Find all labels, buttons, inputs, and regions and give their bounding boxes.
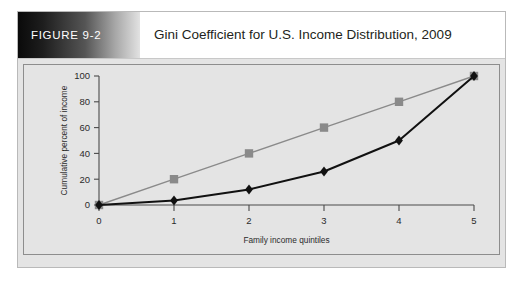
marker-square [245, 149, 253, 157]
figure-number-label: FIGURE 9-2 [31, 29, 101, 41]
x-axis-title: Family income quintiles [243, 235, 329, 245]
marker-square [320, 123, 328, 131]
figure-label-band: FIGURE 9-2 [18, 12, 140, 58]
y-axis-title: Cumulative percent of income [59, 85, 69, 195]
plot-area-border [24, 65, 500, 255]
y-tick-label: 20 [79, 174, 90, 185]
figure-title: Gini Coefficient for U.S. Income Distrib… [154, 27, 452, 43]
x-tick-label: 2 [246, 215, 251, 226]
series-line-1 [99, 76, 474, 205]
marker-diamond [245, 185, 253, 195]
marker-square [395, 98, 403, 106]
y-tick-label: 0 [85, 199, 90, 210]
marker-square [170, 175, 178, 183]
marker-diamond [320, 166, 328, 176]
marker-diamond [170, 196, 178, 206]
y-tick-label: 60 [79, 122, 90, 133]
figure-title-box: Gini Coefficient for U.S. Income Distrib… [140, 12, 505, 58]
x-tick-label: 1 [171, 215, 176, 226]
gini-line-chart: 020406080100012345Family income quintile… [18, 59, 505, 267]
x-tick-label: 3 [321, 215, 326, 226]
figure-container: FIGURE 9-2 Gini Coefficient for U.S. Inc… [17, 11, 506, 268]
y-tick-label: 80 [79, 96, 90, 107]
x-tick-label: 4 [396, 215, 401, 226]
plot-region: 020406080100012345Family income quintile… [18, 59, 505, 267]
x-tick-label: 0 [96, 215, 101, 226]
plot-frame: 020406080100012345Family income quintile… [18, 59, 505, 267]
y-tick-label: 100 [74, 70, 90, 81]
figure-header: FIGURE 9-2 Gini Coefficient for U.S. Inc… [18, 12, 505, 59]
x-tick-label: 5 [471, 215, 476, 226]
y-tick-label: 40 [79, 148, 90, 159]
